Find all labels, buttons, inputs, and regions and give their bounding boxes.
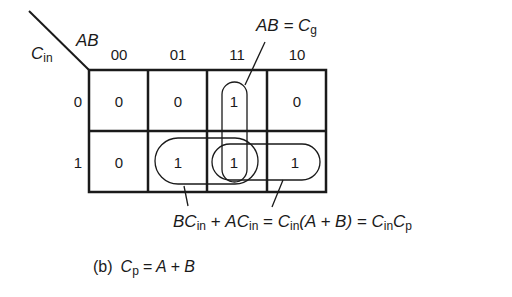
cell-1-01: 1 [174, 154, 182, 171]
col-variable-label: AB [75, 31, 99, 50]
col-header-01: 01 [170, 46, 187, 63]
cell-0-10: 0 [293, 93, 301, 110]
cell-1-10: 1 [291, 154, 299, 171]
row-header-0: 0 [74, 93, 82, 110]
col-header-10: 10 [289, 46, 306, 63]
figure-caption: (b)Cp= A + B [93, 258, 195, 278]
kmap-grid [89, 70, 326, 192]
col-header-11: 11 [229, 46, 245, 63]
karnaugh-map-diagram: AB Cin 00 01 11 10 0 1 0 0 1 0 0 1 1 1 A… [0, 0, 512, 297]
cell-0-00: 0 [115, 93, 123, 110]
cell-1-11: 1 [230, 154, 238, 171]
cell-1-00: 0 [115, 154, 123, 171]
cell-0-11: 1 [230, 93, 238, 110]
row-header-1: 1 [74, 154, 82, 171]
leader-ab [245, 42, 265, 85]
row-variable-label: Cin [31, 44, 53, 65]
col-header-00: 00 [111, 46, 128, 63]
leader-bcin [184, 186, 188, 206]
annotation-ab-cg: AB = Cg [255, 16, 317, 37]
cell-0-01: 0 [174, 93, 182, 110]
annotation-carry-expression: BCin + ACin = Cin(A + B) = CinCp [173, 212, 412, 233]
leader-acin [272, 180, 283, 207]
